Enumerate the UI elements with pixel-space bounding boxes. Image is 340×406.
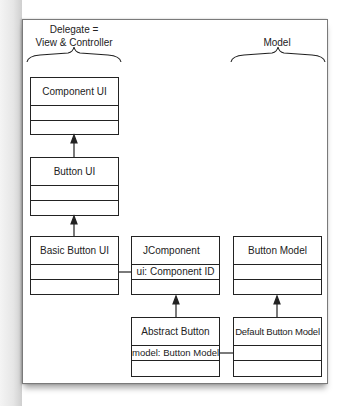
- arrowhead-icon: [274, 296, 280, 304]
- arrowhead-icon: [71, 216, 77, 224]
- arrowhead-icon: [173, 296, 179, 304]
- connectors: [0, 0, 340, 406]
- delegate-brace-icon: [27, 47, 121, 62]
- arrowhead-icon: [71, 135, 77, 143]
- model-brace-icon: [231, 47, 325, 62]
